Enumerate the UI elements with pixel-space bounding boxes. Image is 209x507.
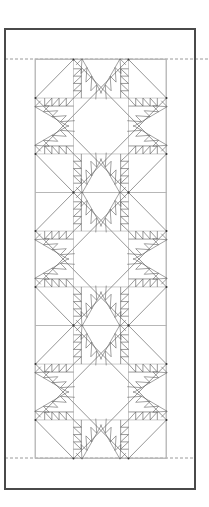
feather-edge [110, 76, 116, 82]
feather-edge [52, 279, 59, 287]
feather-edge [87, 67, 92, 76]
feather-edge [86, 436, 87, 451]
star-diagonal [73, 60, 166, 154]
feather-edge [52, 250, 61, 255]
block-outline [36, 326, 167, 459]
feather-edge [144, 140, 158, 141]
feather-edge [43, 406, 57, 407]
block-outline [36, 193, 167, 326]
feather-edge [73, 435, 81, 442]
feather-edge [92, 342, 97, 351]
feather-edge [92, 300, 97, 309]
feather-edge [136, 412, 143, 420]
feather-edge [52, 268, 66, 269]
feather-edge [105, 427, 111, 433]
feather-edge [121, 294, 129, 301]
feather-edge [105, 76, 110, 85]
star-outline [36, 154, 74, 193]
star-point-marker [35, 153, 37, 155]
star-outline [36, 326, 74, 365]
feather-edge [59, 146, 66, 154]
feather-edge [115, 170, 116, 185]
feather-edge [143, 279, 150, 287]
feather-edge [73, 357, 81, 364]
feather-edge [87, 333, 92, 342]
feather-edge [150, 231, 157, 239]
star-diagonal [73, 364, 166, 458]
feather-edge [87, 309, 92, 318]
feather-edge [60, 130, 66, 136]
feather-edge [129, 412, 136, 420]
feather-edge [150, 245, 159, 250]
star-point-marker [128, 59, 130, 61]
feather-edge [52, 231, 59, 239]
feather-edge [86, 76, 92, 82]
feather-edge [105, 209, 110, 218]
feather-edge [136, 263, 142, 269]
feather-edge [136, 249, 142, 255]
feather-edge [136, 401, 150, 402]
feather-edge [144, 377, 158, 378]
feather-edge [73, 309, 81, 316]
star-diagonal [36, 60, 129, 154]
star-diagonal [36, 231, 129, 325]
feather-edge [144, 406, 158, 407]
feather-edge [136, 382, 150, 383]
feather-edge [52, 98, 59, 106]
feather-edge [82, 185, 87, 194]
feather-edge [43, 112, 52, 117]
feather-edge [45, 279, 52, 287]
star-outline [36, 420, 74, 459]
feather-edge [136, 396, 142, 402]
feather-edge [91, 427, 97, 433]
feather-edge [144, 135, 150, 141]
feather-edge [110, 170, 116, 176]
feather-edge [73, 294, 81, 301]
feather-edge [86, 333, 87, 348]
feather-edge [143, 98, 150, 106]
feather-edge [142, 117, 151, 122]
feather-edge [52, 135, 58, 141]
feather-edge [73, 169, 81, 176]
feather-edge [91, 161, 97, 167]
feather-edge [121, 427, 129, 434]
feather-edge [150, 401, 159, 406]
feather-edge [43, 111, 57, 112]
feather-edge [86, 67, 87, 82]
star-point-marker [35, 97, 37, 99]
star-point-marker [35, 419, 37, 421]
feather-edge [52, 263, 61, 268]
feather-edge [105, 218, 111, 224]
feather-edge [150, 268, 159, 273]
feather-edge [150, 378, 159, 383]
star-point-marker [72, 325, 74, 327]
feather-edge [91, 294, 97, 300]
feather-edge [110, 309, 115, 318]
feather-edge [129, 98, 136, 106]
star-outline [36, 60, 74, 99]
star-point-marker [166, 153, 168, 155]
feather-edge [105, 433, 110, 442]
feather-edge [73, 420, 81, 427]
star-outline [129, 326, 167, 365]
feather-edge [73, 91, 81, 98]
feather-edge [73, 176, 81, 183]
star-diagonal [73, 98, 166, 192]
feather-edge [59, 412, 66, 420]
feather-edge [142, 396, 151, 401]
feather-edge [143, 146, 150, 154]
feather-edge [115, 67, 116, 82]
star-point-marker [166, 97, 168, 99]
feather-edge [52, 396, 61, 401]
feather-edge [66, 364, 73, 372]
feather-edge [66, 412, 73, 420]
feather-edge [105, 300, 110, 309]
feather-edge [115, 436, 116, 451]
feather-edge [86, 200, 87, 215]
feather-edge [121, 161, 129, 168]
feather-edge [52, 364, 59, 372]
feather-edge [73, 216, 81, 223]
feather-edge [121, 357, 129, 364]
feather-edge [91, 294, 92, 309]
feather-edge [60, 249, 66, 255]
